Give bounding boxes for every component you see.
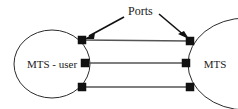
port-right-top bbox=[186, 37, 194, 45]
leader-line-left bbox=[89, 17, 124, 36]
port-right-bottom bbox=[186, 83, 194, 91]
entity-mts-user-label: MTS - user bbox=[27, 58, 77, 70]
connection-top bbox=[82, 40, 190, 41]
port-right-middle bbox=[182, 59, 190, 67]
port-left-top bbox=[78, 36, 86, 44]
entity-mts-label: MTS bbox=[204, 58, 227, 70]
port-left-middle bbox=[81, 59, 89, 67]
port-left-bottom bbox=[78, 83, 86, 91]
diagram-canvas: Ports MTS - user MTS bbox=[0, 0, 238, 109]
ports-annotation-label: Ports bbox=[128, 4, 153, 18]
diagram-svg: Ports MTS - user MTS bbox=[0, 0, 238, 109]
